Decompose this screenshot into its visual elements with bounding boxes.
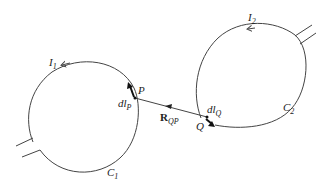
label-rqp: RQP	[160, 111, 179, 126]
label-i1: I1	[48, 56, 57, 71]
loop-c1	[16, 62, 138, 172]
label-c2: C2	[283, 101, 294, 116]
label-p: P	[137, 84, 145, 96]
current-arrow-i2	[248, 28, 255, 29]
rqp-arrowhead	[165, 104, 172, 109]
label-q: Q	[196, 120, 204, 132]
lead-wire-1b	[22, 150, 40, 157]
lead-wire-1a	[16, 138, 33, 146]
lead-wire-2a	[295, 25, 312, 36]
vector-rqp	[134, 97, 209, 119]
label-c1: C1	[107, 166, 118, 181]
magnetic-loops-diagram: I1 C1 P dlP I2 C2 Q dlQ RQP	[0, 0, 332, 189]
label-dlp: dlP	[118, 97, 132, 112]
lead-wire-2b	[300, 33, 316, 44]
label-dlq: dlQ	[207, 103, 222, 118]
point-p-dot	[134, 97, 137, 100]
point-q-dot	[206, 116, 209, 119]
